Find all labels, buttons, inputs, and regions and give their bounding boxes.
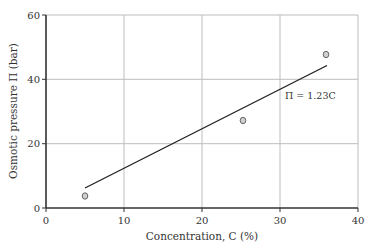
svg-text:10: 10 [118, 215, 131, 226]
x-tick-labels: 0 10 20 30 40 [43, 215, 365, 226]
svg-text:0: 0 [34, 203, 40, 214]
svg-text:60: 60 [27, 10, 40, 21]
data-points [82, 51, 329, 199]
fit-line [85, 66, 327, 189]
y-axis-label: Osmotic pressure Π (bar) [7, 43, 19, 179]
data-point [82, 193, 88, 199]
svg-text:20: 20 [27, 138, 40, 149]
chart: 0 20 40 60 0 10 20 30 40 Concentration, … [0, 0, 378, 248]
fit-equation-annotation: Π = 1.23C [285, 90, 336, 101]
grid-lines [46, 15, 358, 208]
svg-text:40: 40 [352, 215, 365, 226]
tick-marks [42, 15, 358, 212]
svg-text:40: 40 [27, 74, 40, 85]
svg-text:20: 20 [196, 215, 209, 226]
svg-text:30: 30 [274, 215, 287, 226]
data-point [240, 117, 246, 123]
y-tick-labels: 0 20 40 60 [27, 10, 40, 214]
data-point [323, 51, 329, 57]
x-axis-label: Concentration, C (%) [146, 230, 258, 242]
svg-text:0: 0 [43, 215, 49, 226]
